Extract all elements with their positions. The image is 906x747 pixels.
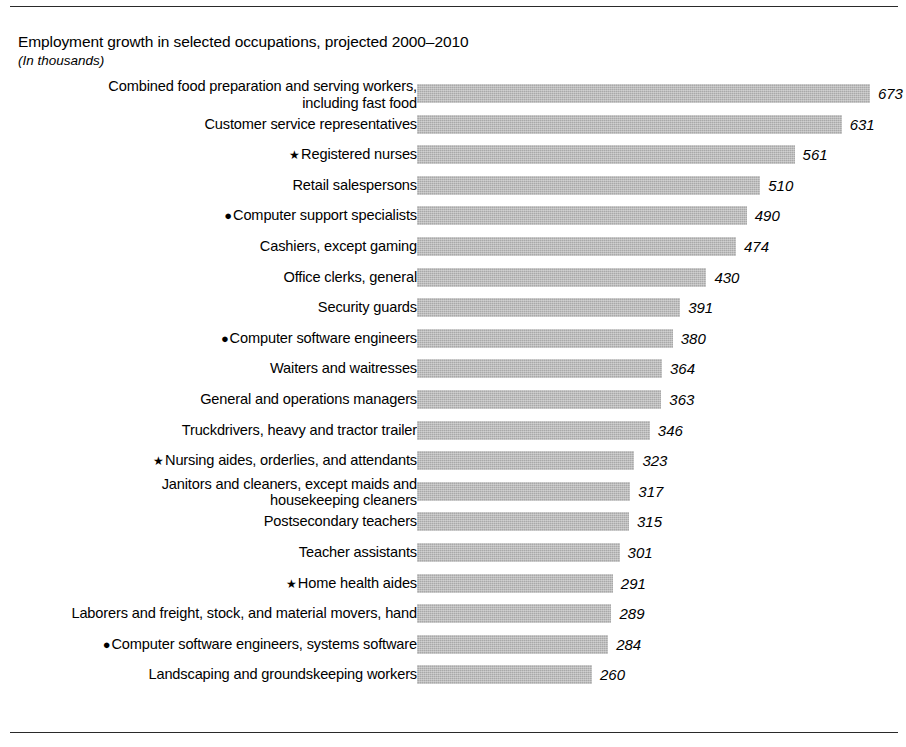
bar — [417, 512, 629, 531]
bar-category-label: Postsecondary teachers — [12, 513, 417, 530]
bar-category-text: Combined food preparation and serving wo… — [108, 78, 417, 111]
bar-category-label: ●Computer support specialists — [12, 207, 417, 225]
bar-category-text: Postsecondary teachers — [264, 513, 417, 529]
bar-category-label: Office clerks, general — [12, 269, 417, 286]
bar-value-label: 315 — [637, 512, 662, 531]
bar-category-text: Customer service representatives — [204, 116, 417, 132]
bar — [417, 665, 592, 684]
bar-category-text: Truckdrivers, heavy and tractor trailer — [182, 422, 417, 438]
bar-value-label: 346 — [658, 421, 683, 440]
bar-value-label: 391 — [688, 298, 713, 317]
bar-category-text: General and operations managers — [200, 391, 417, 407]
bar-category-label: Customer service representatives — [12, 116, 417, 133]
bar-value-label: 561 — [803, 145, 828, 164]
bar-category-label: ★Home health aides — [12, 575, 417, 593]
bar — [417, 298, 680, 317]
bar-value-label: 380 — [681, 329, 706, 348]
bar-row: Landscaping and groundskeeping workers26… — [0, 665, 906, 696]
bar-category-label: ●Computer software engineers — [12, 330, 417, 348]
dot-marker-icon: ● — [221, 331, 230, 346]
bar-category-text: Home health aides — [298, 575, 417, 591]
bar-category-label: ●Computer software engineers, systems so… — [12, 636, 417, 654]
bar-category-label: Teacher assistants — [12, 544, 417, 561]
bar — [417, 482, 630, 501]
bar-row: Truckdrivers, heavy and tractor trailer3… — [0, 421, 906, 452]
bar-value-label: 673 — [878, 84, 903, 103]
bar — [417, 604, 611, 623]
bar-category-text: Retail salespersons — [292, 177, 417, 193]
star-marker-icon: ★ — [286, 577, 298, 591]
bar-category-label: Laborers and freight, stock, and materia… — [12, 605, 417, 622]
bar-category-text: Computer software engineers — [230, 330, 417, 346]
bar-category-label: Security guards — [12, 299, 417, 316]
bar — [417, 390, 661, 409]
chart-title: Employment growth in selected occupation… — [18, 32, 718, 51]
bar-chart-plot-area: Combined food preparation and serving wo… — [0, 84, 906, 700]
bar-value-label: 301 — [628, 543, 653, 562]
bar-category-text: Janitors and cleaners, except maids and … — [162, 476, 417, 509]
star-marker-icon: ★ — [153, 454, 165, 468]
bar-value-label: 284 — [616, 635, 641, 654]
bar-row: Security guards391 — [0, 298, 906, 329]
bar — [417, 574, 613, 593]
bar-value-label: 363 — [669, 390, 694, 409]
bar-category-label: Landscaping and groundskeeping workers — [12, 666, 417, 683]
bar-category-text: Landscaping and groundskeeping workers — [148, 666, 417, 682]
bar-category-text: Laborers and freight, stock, and materia… — [71, 605, 417, 621]
bar-category-text: Computer software engineers, systems sof… — [111, 636, 417, 652]
bar — [417, 543, 620, 562]
bar — [417, 635, 608, 654]
bar-row: Waiters and waitresses364 — [0, 359, 906, 390]
bar-category-label: General and operations managers — [12, 391, 417, 408]
bar-row: ●Computer support specialists490 — [0, 206, 906, 237]
chart-figure: Employment growth in selected occupation… — [0, 0, 906, 747]
bar — [417, 451, 634, 470]
bar-row: Combined food preparation and serving wo… — [0, 84, 906, 115]
bar-category-label: Waiters and waitresses — [12, 360, 417, 377]
bar-value-label: 510 — [768, 176, 793, 195]
bar-category-label: Retail salespersons — [12, 177, 417, 194]
dot-marker-icon: ● — [224, 208, 233, 223]
bar-category-label: Cashiers, except gaming — [12, 238, 417, 255]
bar-category-label: Truckdrivers, heavy and tractor trailer — [12, 422, 417, 439]
bar-value-label: 289 — [619, 604, 644, 623]
bar — [417, 237, 736, 256]
bottom-divider-rule — [10, 732, 898, 733]
bar — [417, 115, 842, 134]
bar-category-text: Cashiers, except gaming — [260, 238, 417, 254]
bar — [417, 176, 760, 195]
bar-category-text: Computer support specialists — [233, 207, 417, 223]
bar-category-text: Waiters and waitresses — [270, 360, 417, 376]
bar-value-label: 317 — [638, 482, 663, 501]
bar-value-label: 430 — [714, 268, 739, 287]
bar-row: Cashiers, except gaming474 — [0, 237, 906, 268]
bar-row: Janitors and cleaners, except maids and … — [0, 482, 906, 513]
title-block: Employment growth in selected occupation… — [18, 32, 718, 69]
bar-category-label: ★Registered nurses — [12, 146, 417, 164]
bar — [417, 359, 662, 378]
bar — [417, 268, 706, 287]
chart-subtitle: (In thousands) — [18, 52, 718, 69]
bar-value-label: 364 — [670, 359, 695, 378]
bar-row: Office clerks, general430 — [0, 268, 906, 299]
bar-row: Postsecondary teachers315 — [0, 512, 906, 543]
bar-value-label: 291 — [621, 574, 646, 593]
bar-row: ★Registered nurses561 — [0, 145, 906, 176]
bar-category-text: Nursing aides, orderlies, and attendants — [165, 452, 417, 468]
bar — [417, 206, 747, 225]
bar-row: Teacher assistants301 — [0, 543, 906, 574]
bar-category-label: ★Nursing aides, orderlies, and attendant… — [12, 452, 417, 470]
bar-row: Laborers and freight, stock, and materia… — [0, 604, 906, 635]
bar — [417, 421, 650, 440]
bar-row: ●Computer software engineers, systems so… — [0, 635, 906, 666]
bar — [417, 329, 673, 348]
bar-category-text: Registered nurses — [301, 146, 417, 162]
top-divider-rule — [10, 6, 898, 7]
bar-row: Retail salespersons510 — [0, 176, 906, 207]
bar — [417, 145, 795, 164]
bar-value-label: 260 — [600, 665, 625, 684]
bar-category-label: Janitors and cleaners, except maids and … — [12, 476, 417, 509]
bar-row: ★Home health aides291 — [0, 574, 906, 605]
bar-value-label: 490 — [755, 206, 780, 225]
bar-category-text: Security guards — [318, 299, 417, 315]
